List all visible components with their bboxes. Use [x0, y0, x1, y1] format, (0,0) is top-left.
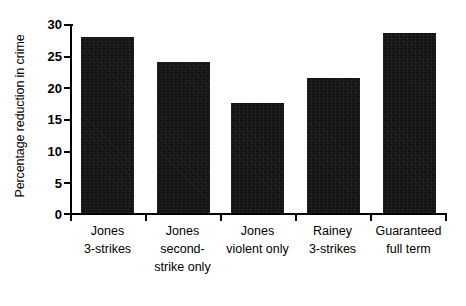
bar	[383, 33, 436, 213]
bar	[307, 78, 360, 213]
x-category-label-line: full term	[370, 240, 447, 258]
x-category-label-line: Rainey	[295, 222, 370, 240]
x-category-label: Guaranteed full term	[370, 222, 447, 258]
y-axis-title: Percentage reduction in crime	[9, 0, 31, 232]
x-category-label-line: Jones	[145, 222, 220, 240]
x-tick-mark	[370, 213, 372, 221]
y-tick-mark	[64, 87, 72, 89]
y-tick-label: 25	[36, 50, 62, 63]
x-category-label-line: 3-strikes	[70, 240, 145, 258]
y-axis-tick-labels: 30 25 20 15 10 5 0	[36, 0, 62, 306]
x-category-label-line: strike only	[145, 258, 220, 276]
x-axis-category-labels: Jones 3-strikes Jones second- strike onl…	[70, 222, 447, 302]
y-tick-mark	[64, 151, 72, 153]
bar	[231, 103, 284, 213]
x-category-label-line: Guaranteed	[370, 222, 447, 240]
bar	[157, 62, 210, 213]
x-category-label-line: 3-strikes	[295, 240, 370, 258]
y-tick-label: 10	[36, 145, 62, 158]
y-tick-label: 20	[36, 82, 62, 95]
x-tick-mark	[445, 213, 447, 221]
x-tick-mark	[220, 213, 222, 221]
x-category-label: Jones 3-strikes	[70, 222, 145, 258]
plot-area	[70, 24, 447, 215]
x-category-label: Rainey 3-strikes	[295, 222, 370, 258]
x-category-label-line: Jones	[220, 222, 295, 240]
x-axis-line	[70, 213, 447, 215]
y-tick-label: 15	[36, 113, 62, 126]
x-category-label-line: Jones	[70, 222, 145, 240]
x-category-label: Jones second- strike only	[145, 222, 220, 276]
y-tick-label: 30	[36, 18, 62, 31]
x-tick-mark	[70, 213, 72, 221]
y-tick-label: 0	[36, 208, 62, 221]
x-tick-mark	[295, 213, 297, 221]
x-category-label-line: second-	[145, 240, 220, 258]
y-tick-mark	[64, 24, 73, 26]
x-category-label: Jones violent only	[220, 222, 295, 258]
bar	[81, 37, 134, 213]
x-category-label-line: violent only	[220, 240, 295, 258]
y-tick-mark	[64, 119, 72, 121]
y-tick-mark	[64, 56, 72, 58]
x-tick-mark	[145, 213, 147, 221]
y-tick-label: 5	[36, 177, 62, 190]
bar-chart: Percentage reduction in crime 30 25 20 1…	[0, 0, 466, 306]
y-tick-mark	[64, 182, 72, 184]
